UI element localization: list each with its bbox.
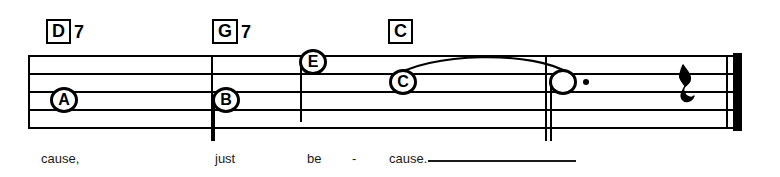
lyric-cause-1: cause,: [41, 152, 79, 165]
staff-line-1: [28, 55, 742, 57]
sheet-music-system: D 7 G 7 C A B E C: [0, 0, 780, 177]
staff-line-5: [28, 127, 742, 129]
staff-line-2: [28, 73, 742, 75]
note-b: B: [212, 87, 240, 113]
lyric-be: be: [307, 152, 321, 165]
final-barline-thin: [726, 55, 728, 129]
chord-symbol-c: C: [388, 19, 416, 44]
chord-extension: 7: [74, 23, 84, 41]
note-tied-dotted-half: [549, 69, 577, 95]
note-letter: E: [308, 54, 319, 70]
chord-extension: 7: [241, 23, 251, 41]
note-b-stem: [213, 100, 215, 141]
note-e-stem: [300, 62, 302, 122]
note-letter: A: [58, 92, 70, 108]
staff-line-4: [28, 109, 742, 111]
chord-root-letter: G: [212, 19, 238, 44]
lyric-just: just: [215, 152, 235, 165]
augmentation-dot: [583, 79, 589, 85]
staff-line-3: [28, 91, 742, 93]
chord-symbol-g7: G 7: [212, 19, 251, 44]
chord-symbol-d7: D 7: [46, 19, 84, 44]
note-letter: C: [397, 74, 409, 90]
barline-2: [545, 55, 547, 141]
final-barline-thick: [733, 53, 742, 131]
chord-root-letter: D: [46, 19, 71, 44]
quarter-rest-icon: [675, 62, 701, 114]
lyric-extender-line: [428, 160, 576, 162]
note-a: A: [50, 87, 78, 113]
barline-start: [28, 55, 30, 129]
chord-root-letter: C: [388, 19, 413, 44]
note-tied-stem: [550, 82, 552, 141]
lyric-cause-2: cause.: [389, 152, 427, 165]
note-c: C: [389, 69, 417, 95]
note-e: E: [299, 49, 327, 75]
lyric-hyphen: -: [352, 152, 356, 165]
note-letter: B: [220, 92, 232, 108]
